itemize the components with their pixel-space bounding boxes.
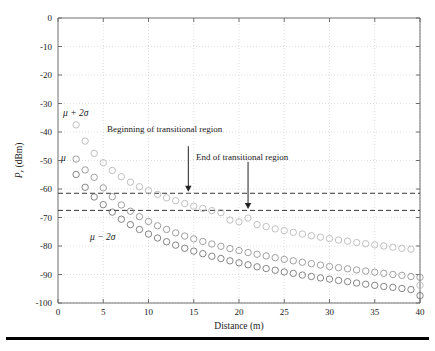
data-point bbox=[290, 229, 296, 235]
x-tick-label: 25 bbox=[280, 307, 290, 317]
data-point bbox=[154, 191, 160, 197]
data-point bbox=[363, 268, 369, 274]
data-point bbox=[390, 284, 396, 290]
x-tick-label: 30 bbox=[325, 307, 335, 317]
y-tick-label: -100 bbox=[36, 298, 53, 308]
x-tick-label: 5 bbox=[101, 307, 106, 317]
x-tick-label: 15 bbox=[189, 307, 199, 317]
data-point bbox=[118, 174, 124, 180]
data-point bbox=[118, 202, 124, 208]
x-tick-label: 0 bbox=[56, 307, 61, 317]
data-point bbox=[73, 171, 79, 177]
data-point bbox=[182, 200, 188, 206]
data-point bbox=[100, 185, 106, 191]
y-tick-label: 0 bbox=[48, 13, 53, 23]
x-tick-label: 40 bbox=[416, 307, 426, 317]
y-tick-label: -30 bbox=[40, 99, 52, 109]
bottom-horizontal-rule bbox=[6, 337, 429, 340]
data-point bbox=[200, 250, 206, 256]
data-point bbox=[272, 226, 278, 232]
data-point bbox=[317, 234, 323, 240]
data-point bbox=[408, 246, 414, 252]
data-point bbox=[163, 226, 169, 232]
data-point bbox=[381, 283, 387, 289]
data-point bbox=[272, 254, 278, 260]
data-point bbox=[127, 221, 133, 227]
data-point bbox=[272, 267, 278, 273]
data-point bbox=[91, 174, 97, 180]
data-point bbox=[218, 255, 224, 261]
data-point bbox=[317, 275, 323, 281]
data-point bbox=[82, 184, 88, 190]
y-tick-label: -60 bbox=[40, 184, 52, 194]
data-point bbox=[82, 167, 88, 173]
chart-canvas: 0-10-20-30-40-50-60-70-80-90-10005101520… bbox=[0, 0, 435, 351]
y-tick-label: -90 bbox=[40, 270, 52, 280]
data-point bbox=[399, 272, 405, 278]
data-point bbox=[308, 233, 314, 239]
data-point bbox=[372, 242, 378, 248]
data-point bbox=[381, 270, 387, 276]
mu-minus-2sigma-label: μ − 2σ bbox=[89, 232, 116, 242]
data-point bbox=[172, 197, 178, 203]
data-point bbox=[127, 179, 133, 185]
data-point bbox=[82, 138, 88, 144]
data-point bbox=[127, 208, 133, 214]
data-point bbox=[344, 266, 350, 272]
y-axis-title: Pr (dBm) bbox=[14, 143, 26, 180]
data-point bbox=[281, 269, 287, 275]
data-point bbox=[109, 209, 115, 215]
y-tick-label: -10 bbox=[40, 42, 52, 52]
data-point bbox=[390, 244, 396, 250]
data-point bbox=[317, 262, 323, 268]
data-point bbox=[182, 233, 188, 239]
data-point bbox=[353, 267, 359, 273]
data-point bbox=[263, 253, 269, 259]
data-point bbox=[381, 243, 387, 249]
data-point bbox=[227, 217, 233, 223]
data-point bbox=[209, 253, 215, 259]
data-point bbox=[191, 203, 197, 209]
data-point bbox=[263, 265, 269, 271]
data-point bbox=[91, 150, 97, 156]
data-point bbox=[308, 273, 314, 279]
beginning-of-transitional-region-label: Beginning of transitional region bbox=[107, 124, 223, 134]
data-point bbox=[154, 223, 160, 229]
data-point bbox=[363, 241, 369, 247]
data-point bbox=[118, 216, 124, 222]
data-point bbox=[91, 194, 97, 200]
data-point bbox=[163, 195, 169, 201]
data-point bbox=[109, 167, 115, 173]
data-point bbox=[353, 239, 359, 245]
end-of-transitional-region-arrow-head bbox=[245, 203, 251, 209]
data-point bbox=[136, 213, 142, 219]
data-point bbox=[245, 215, 251, 221]
data-point bbox=[408, 286, 414, 292]
data-point bbox=[299, 259, 305, 265]
data-point bbox=[299, 272, 305, 278]
x-tick-label: 10 bbox=[144, 307, 154, 317]
data-point bbox=[299, 231, 305, 237]
data-point bbox=[363, 281, 369, 287]
data-point bbox=[245, 249, 251, 255]
data-point bbox=[335, 264, 341, 270]
y-tick-label: -20 bbox=[40, 70, 52, 80]
data-point bbox=[73, 156, 79, 162]
x-tick-label: 20 bbox=[235, 307, 245, 317]
data-point bbox=[290, 258, 296, 264]
data-point bbox=[408, 273, 414, 279]
data-point bbox=[372, 269, 378, 275]
x-axis-title: Distance (m) bbox=[214, 321, 263, 332]
data-point bbox=[172, 230, 178, 236]
y-tick-label: -70 bbox=[40, 213, 52, 223]
figure-container: 0-10-20-30-40-50-60-70-80-90-10005101520… bbox=[0, 0, 435, 351]
x-tick-label: 35 bbox=[370, 307, 380, 317]
data-point bbox=[335, 277, 341, 283]
data-point bbox=[236, 260, 242, 266]
end-of-transitional-region-label: End of transitional region bbox=[196, 152, 289, 162]
y-tick-label: -40 bbox=[40, 127, 52, 137]
data-point bbox=[227, 245, 233, 251]
data-point bbox=[254, 251, 260, 257]
mu-plus-2sigma-label: μ + 2σ bbox=[62, 108, 89, 118]
data-point bbox=[390, 271, 396, 277]
